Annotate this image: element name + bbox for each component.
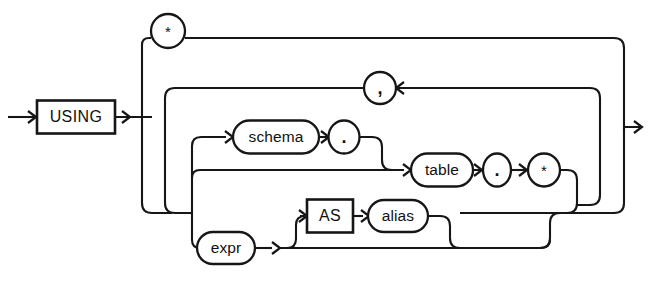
rail-spine-inner-up xyxy=(165,88,365,117)
node-using[interactable]: USING xyxy=(37,101,115,134)
rail-spine-inner xyxy=(165,117,192,213)
node-dot-table[interactable]: . xyxy=(483,154,511,187)
star-top-label: * xyxy=(165,23,171,40)
arrowhead-schema-in xyxy=(225,131,233,143)
node-star-table[interactable]: * xyxy=(528,154,560,187)
arrowhead-table-in xyxy=(403,164,411,176)
node-dot-schema[interactable]: . xyxy=(329,121,360,154)
node-alias[interactable]: alias xyxy=(368,200,428,232)
rail-dot1-to-table xyxy=(360,137,404,170)
node-expr[interactable]: expr xyxy=(197,232,255,264)
dot-table-label: . xyxy=(494,160,499,180)
rail-alias-down xyxy=(428,216,466,248)
node-comma[interactable]: , xyxy=(364,72,396,104)
using-label: USING xyxy=(50,108,103,125)
node-star-top[interactable]: * xyxy=(151,14,185,48)
expr-label: expr xyxy=(211,239,242,256)
railroad-diagram: USING * , schema . table . xyxy=(0,0,655,283)
node-as[interactable]: AS xyxy=(307,200,353,233)
arrowhead-expr-out xyxy=(272,242,280,254)
comma-label: , xyxy=(377,78,382,98)
rail-spine-outer xyxy=(142,38,151,117)
node-schema[interactable]: schema xyxy=(233,121,319,154)
rail-star2-down xyxy=(560,170,577,213)
node-table[interactable]: table xyxy=(411,154,473,187)
rail-star1-to-right xyxy=(185,38,624,117)
rail-bottom-to-collector-up xyxy=(466,213,577,248)
table-label: table xyxy=(425,161,459,178)
rail-branch-to-schema xyxy=(192,137,226,178)
rail-spine-outer-down xyxy=(142,117,172,213)
as-label: AS xyxy=(319,207,341,224)
alias-label: alias xyxy=(382,207,415,224)
schema-label: schema xyxy=(249,128,304,145)
star-table-label: * xyxy=(541,162,547,179)
dot-schema-label: . xyxy=(341,127,346,147)
syntax-diagram-canvas: USING * , schema . table . xyxy=(0,0,655,283)
